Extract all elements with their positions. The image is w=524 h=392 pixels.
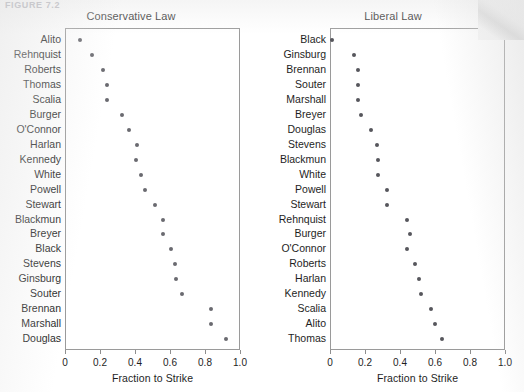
x-tick-conservative-4 [205, 350, 206, 354]
category-label-conservative-douglas: Douglas [0, 333, 61, 344]
category-label-liberal-souter: Souter [262, 79, 326, 90]
data-point-liberal-marshall [356, 98, 360, 102]
panel-conservative-law: Conservative Law AlitoRehnquistRobertsTh… [0, 0, 262, 392]
category-label-conservative-scalia: Scalia [0, 94, 61, 105]
category-label-liberal-roberts: Roberts [262, 258, 326, 269]
category-label-liberal-stewart: Stewart [262, 198, 326, 209]
category-label-liberal-douglas: Douglas [262, 124, 326, 135]
data-point-conservative-roberts [101, 68, 105, 72]
category-label-conservative-alito: Alito [0, 34, 61, 45]
data-point-conservative-burger [120, 113, 124, 117]
data-point-liberal-roberts [413, 262, 417, 266]
data-point-conservative-scalia [105, 98, 109, 102]
x-tick-liberal-4 [470, 350, 471, 354]
category-label-liberal-powell: Powell [262, 183, 326, 194]
panel-liberal-law: Liberal Law BlackGinsburgBrennanSouterMa… [262, 0, 524, 392]
category-label-liberal-ginsburg: Ginsburg [262, 49, 326, 60]
data-point-liberal-blackmun [376, 158, 380, 162]
data-point-liberal-ginsburg [352, 53, 356, 57]
plot-area-liberal [330, 28, 505, 350]
category-label-conservative-stewart: Stewart [0, 198, 61, 209]
category-label-liberal-scalia: Scalia [262, 303, 326, 314]
data-point-conservative-rehnquist [90, 53, 94, 57]
category-label-conservative-marshall: Marshall [0, 318, 61, 329]
data-point-conservative-stevens [173, 262, 177, 266]
x-tick-label-conservative-2: 0.4 [128, 357, 142, 368]
x-tick-label-conservative-1: 0.2 [93, 357, 107, 368]
data-point-liberal-harlan [417, 277, 421, 281]
data-point-conservative-alito [78, 38, 82, 42]
data-point-conservative-thomas [105, 83, 109, 87]
x-tick-conservative-2 [135, 350, 136, 354]
x-tick-liberal-5 [505, 350, 506, 354]
category-label-liberal-stevens: Stevens [262, 139, 326, 150]
data-point-conservative-black [169, 247, 173, 251]
category-label-conservative-white: White [0, 168, 61, 179]
category-labels-liberal: BlackGinsburgBrennanSouterMarshallBreyer… [262, 28, 326, 350]
data-point-conservative-marshall [209, 322, 213, 326]
plot-area-conservative [65, 28, 240, 350]
x-tick-conservative-3 [170, 350, 171, 354]
category-label-liberal-brennan: Brennan [262, 64, 326, 75]
figure-caption: FIGURE 7.2 [5, 0, 60, 9]
category-label-conservative-ginsburg: Ginsburg [0, 273, 61, 284]
category-label-liberal-alito: Alito [262, 318, 326, 329]
category-label-conservative-stevens: Stevens [0, 258, 61, 269]
data-point-liberal-burger [408, 232, 412, 236]
data-point-liberal-alito [433, 322, 437, 326]
data-point-conservative-ginsburg [174, 277, 178, 281]
x-tick-liberal-0 [330, 350, 331, 354]
data-point-conservative-kennedy [134, 158, 138, 162]
category-labels-conservative: AlitoRehnquistRobertsThomasScaliaBurgerO… [0, 28, 61, 350]
category-label-liberal-burger: Burger [262, 228, 326, 239]
data-point-conservative-harlan [135, 143, 139, 147]
x-tick-label-conservative-3: 0.6 [163, 357, 177, 368]
category-label-liberal-white: White [262, 168, 326, 179]
data-point-liberal-douglas [369, 128, 373, 132]
x-axis-title-liberal: Fraction to Strike [330, 372, 505, 384]
category-label-conservative-black: Black [0, 243, 61, 254]
category-label-conservative-blackmun: Blackmun [0, 213, 61, 224]
x-tick-label-liberal-1: 0.2 [358, 357, 372, 368]
figure-container: FIGURE 7.2 Conservative Law AlitoRehnqui… [0, 0, 524, 392]
category-label-conservative-harlan: Harlan [0, 139, 61, 150]
data-point-liberal-scalia [429, 307, 433, 311]
data-point-liberal-black [330, 38, 334, 42]
x-tick-label-liberal-2: 0.4 [393, 357, 407, 368]
x-tick-conservative-1 [100, 350, 101, 354]
panel-title-liberal: Liberal Law [262, 10, 524, 22]
category-label-conservative-kennedy: Kennedy [0, 153, 61, 164]
data-point-conservative-blackmun [161, 218, 165, 222]
data-point-conservative-brennan [209, 307, 213, 311]
category-label-conservative-breyer: Breyer [0, 228, 61, 239]
data-point-liberal-stewart [385, 203, 389, 207]
data-point-liberal-white [376, 173, 380, 177]
x-tick-label-conservative-0: 0 [62, 357, 68, 368]
x-tick-conservative-0 [65, 350, 66, 354]
data-point-conservative-stewart [153, 203, 157, 207]
category-label-liberal-oconnor: O'Connor [262, 243, 326, 254]
data-point-conservative-oconnor [127, 128, 131, 132]
category-label-liberal-rehnquist: Rehnquist [262, 213, 326, 224]
panel-title-conservative: Conservative Law [0, 10, 262, 22]
x-tick-label-liberal-3: 0.6 [428, 357, 442, 368]
x-tick-label-conservative-4: 0.8 [198, 357, 212, 368]
x-tick-liberal-3 [435, 350, 436, 354]
x-tick-label-conservative-5: 1.0 [233, 357, 247, 368]
category-label-liberal-blackmun: Blackmun [262, 153, 326, 164]
x-tick-liberal-1 [365, 350, 366, 354]
category-label-conservative-thomas: Thomas [0, 79, 61, 90]
data-point-liberal-powell [385, 188, 389, 192]
data-point-liberal-oconnor [405, 247, 409, 251]
x-tick-label-liberal-0: 0 [327, 357, 333, 368]
category-label-conservative-brennan: Brennan [0, 303, 61, 314]
x-tick-label-liberal-5: 1.0 [498, 357, 512, 368]
data-point-liberal-brennan [356, 68, 360, 72]
category-label-liberal-thomas: Thomas [262, 333, 326, 344]
x-tick-conservative-5 [240, 350, 241, 354]
category-label-conservative-souter: Souter [0, 288, 61, 299]
data-point-conservative-white [139, 173, 143, 177]
data-point-conservative-breyer [161, 232, 165, 236]
category-label-conservative-powell: Powell [0, 183, 61, 194]
data-point-liberal-souter [356, 83, 360, 87]
